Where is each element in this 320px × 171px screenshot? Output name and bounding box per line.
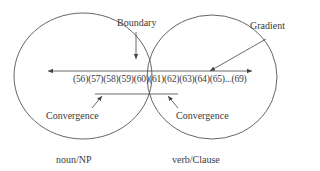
convergence-right-label: Convergence [176, 111, 229, 121]
convergence-left-arrow [92, 96, 102, 108]
noun-np-label: noun/NP [56, 155, 92, 165]
convergence-right-arrow [168, 96, 178, 108]
gradient-pointer-arrow [210, 39, 266, 71]
convergence-left-label: Convergence [46, 111, 99, 121]
gradient-label: Gradient [250, 21, 285, 31]
verb-clause-label: verb/Clause [172, 155, 220, 165]
example-number-scale: (56)(57)(58)(59)(60)(61)(62)(63)(64)(65)… [73, 74, 247, 84]
boundary-label: Boundary [117, 18, 156, 28]
